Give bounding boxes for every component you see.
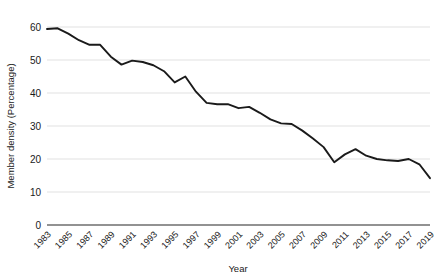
x-tick-label: 1997 [181,229,202,250]
x-tick-label: 2019 [415,229,436,250]
x-tick-label: 1983 [32,229,53,250]
x-tick-label: 1991 [117,229,138,250]
x-tick-label: 2017 [393,229,414,250]
gridlines [47,27,430,192]
x-tick-label: 2001 [223,229,244,250]
x-tick-label: 2005 [266,229,287,250]
x-tick-label: 1987 [74,229,95,250]
x-tick-label: 2013 [351,229,372,250]
x-tick-label: 1993 [138,229,159,250]
x-axis-title: Year [228,263,247,274]
x-tick-label: 2007 [287,229,308,250]
x-tick-label: 2015 [372,229,393,250]
y-tick-label: 0 [35,220,41,231]
x-tick-label: 2009 [308,229,329,250]
x-tick-label: 1985 [53,229,74,250]
x-tick-label: 1999 [202,229,223,250]
x-tick-label: 1989 [96,229,117,250]
x-tick-label: 1995 [159,229,180,250]
y-tick-label: 50 [30,55,42,66]
y-tick-label: 60 [30,22,42,33]
y-tick-label: 10 [30,187,42,198]
data-series-line [47,28,430,178]
x-tick-label: 2011 [330,229,351,250]
y-tick-label: 20 [30,154,42,165]
y-axis-ticks: 0102030405060 [30,22,42,231]
y-tick-label: 30 [30,121,42,132]
y-axis-title: Member density (Percentage) [5,63,16,188]
x-tick-label: 2003 [244,229,265,250]
chart-container: Member density (Percentage) 010203040506… [0,0,436,280]
x-axis-ticks: 1983198519871989199119931995199719992001… [32,229,436,250]
line-chart: Member density (Percentage) 010203040506… [0,0,436,280]
y-tick-label: 40 [30,88,42,99]
